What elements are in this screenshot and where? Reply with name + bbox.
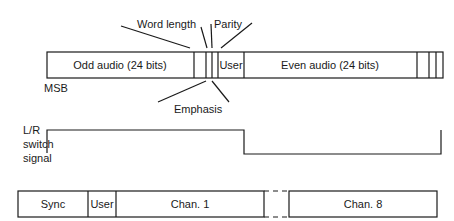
- even-audio-label: Even audio (24 bits): [281, 59, 379, 71]
- word-length-label: Word length: [137, 18, 196, 30]
- chan8-label: Chan. 8: [344, 198, 383, 210]
- parity-label: Parity: [214, 18, 243, 30]
- lr-switch-waveform: [47, 130, 441, 154]
- msb-label: MSB: [44, 82, 68, 94]
- signal-label-line1: L/R: [23, 124, 40, 136]
- emphasis-label: Emphasis: [174, 103, 223, 115]
- emphasis-pointer: [158, 81, 206, 102]
- top-user-label: User: [219, 59, 243, 71]
- sync-label: Sync: [41, 198, 66, 210]
- frame-diagram: Odd audio (24 bits) User Even audio (24 …: [0, 0, 454, 221]
- signal-label-line2: switch: [23, 138, 54, 150]
- signal-label-line3: signal: [23, 152, 52, 164]
- word-length-pointer-2: [201, 27, 207, 48]
- bottom-user-label: User: [90, 198, 114, 210]
- chan1-label: Chan. 1: [171, 198, 210, 210]
- odd-audio-label: Odd audio (24 bits): [73, 59, 167, 71]
- emphasis-pointer-2: [212, 81, 229, 102]
- parity-pointer-2: [211, 24, 212, 48]
